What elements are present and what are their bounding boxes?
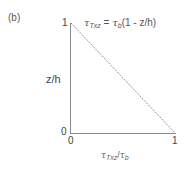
xlabel-subscript: Txz: [106, 154, 117, 161]
y-tick-label-0: 0: [61, 126, 67, 137]
x-tick-label-0: 0: [68, 135, 74, 146]
eq-subscript: Txz: [90, 22, 101, 29]
equation-annotation: τTxz = τb(1 - z/h): [84, 17, 156, 29]
data-line: [71, 23, 175, 133]
x-tick-label-1: 1: [172, 135, 178, 146]
panel-label: (b): [8, 12, 20, 23]
xlabel-subscript: b: [125, 154, 129, 161]
eq-expression: (1 - z/h): [122, 17, 156, 28]
y-tick-label-1: 1: [62, 17, 68, 28]
y-axis-label: z/h: [46, 73, 61, 85]
eq-equals: =: [101, 17, 112, 28]
x-axis-label: τTxz/τb: [101, 150, 129, 161]
